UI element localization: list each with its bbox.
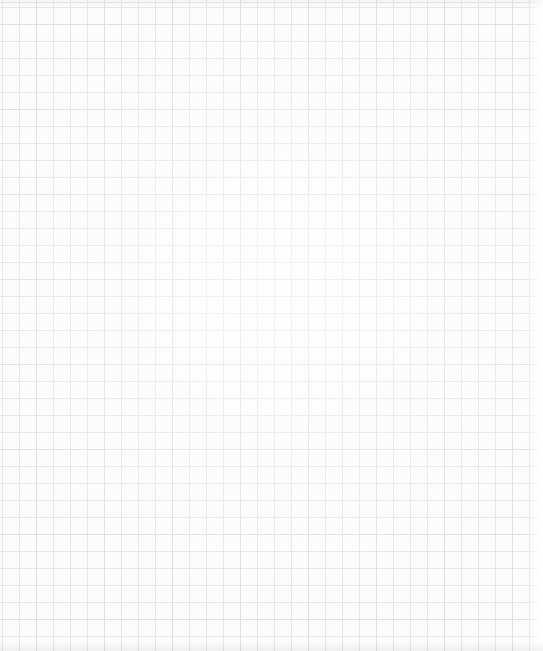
grid-lines-accent (0, 0, 543, 651)
graph-paper-sheet (0, 0, 543, 651)
